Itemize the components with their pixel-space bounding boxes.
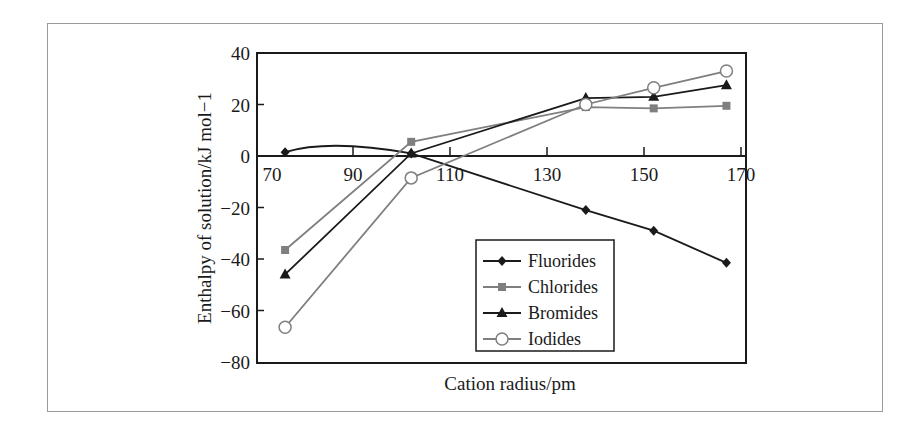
y-axis-title: Enthalpy of solution/kJ mol−1 bbox=[194, 92, 215, 324]
square-marker bbox=[407, 138, 415, 146]
x-tick-label: 170 bbox=[727, 164, 756, 185]
square-marker bbox=[650, 104, 658, 112]
diamond-marker bbox=[722, 258, 731, 268]
circle-marker bbox=[279, 321, 291, 333]
y-tick-label: −40 bbox=[220, 249, 250, 270]
square-marker bbox=[281, 246, 289, 254]
legend-label: Fluorides bbox=[528, 251, 596, 271]
legend: FluoridesChloridesBromidesIodides bbox=[476, 240, 614, 351]
y-tick-label: −80 bbox=[220, 352, 250, 373]
x-tick-label: 70 bbox=[263, 164, 282, 185]
y-tick-label: 40 bbox=[231, 43, 250, 64]
legend-label: Iodides bbox=[528, 329, 581, 349]
triangle-marker bbox=[721, 79, 732, 89]
square-marker bbox=[498, 283, 506, 291]
chart-canvas: 40200−20−40−60−80 7090110130150170 Entha… bbox=[0, 0, 916, 427]
x-tick-label: 150 bbox=[630, 164, 659, 185]
legend-label: Bromides bbox=[528, 303, 598, 323]
x-axis-title: Cation radius/pm bbox=[444, 373, 576, 394]
x-tick-label: 130 bbox=[533, 164, 562, 185]
circle-marker bbox=[405, 172, 417, 184]
square-marker bbox=[722, 102, 730, 110]
x-tick-label: 110 bbox=[436, 164, 464, 185]
figure-frame bbox=[48, 24, 883, 412]
x-axis-ticks: 7090110130150170 bbox=[263, 147, 756, 185]
y-tick-label: −20 bbox=[220, 198, 250, 219]
legend-label: Chlorides bbox=[528, 277, 598, 297]
y-tick-label: 0 bbox=[241, 146, 251, 167]
circle-marker bbox=[496, 333, 508, 345]
diamond-marker bbox=[581, 205, 590, 215]
diamond-marker bbox=[649, 226, 658, 236]
circle-marker bbox=[580, 99, 592, 111]
y-tick-label: −60 bbox=[220, 301, 250, 322]
y-tick-label: 20 bbox=[231, 95, 250, 116]
circle-marker bbox=[720, 65, 732, 77]
chart-figure: 40200−20−40−60−80 7090110130150170 Entha… bbox=[0, 0, 916, 427]
x-tick-label: 90 bbox=[344, 164, 363, 185]
circle-marker bbox=[648, 82, 660, 94]
